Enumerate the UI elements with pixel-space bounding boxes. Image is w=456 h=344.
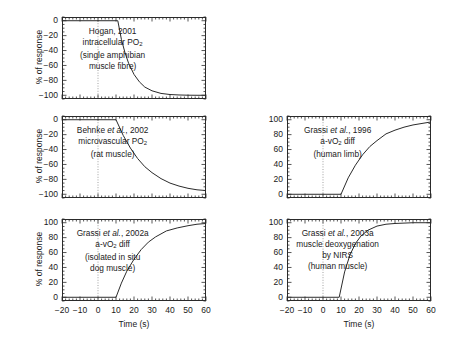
panel-annotation-grassi-1996: Grassi et al., 1996a-vO2 diff(human limb… — [293, 125, 382, 160]
annotation-line: Hogan, 2001 — [68, 26, 157, 37]
annotation-line: intracellular PO2 — [68, 37, 157, 50]
annotation-line: microvascular PO2 — [68, 136, 157, 149]
y-tick-label-grassi-1996: 100 — [253, 114, 283, 124]
panel-annotation-behnke-2002: Behnke et al., 2002microvascular PO2(rat… — [68, 125, 157, 160]
annotation-line: (isolated in situ — [68, 252, 157, 263]
annotation-line: (human muscle) — [293, 261, 382, 272]
y-tick-label-grassi-1996: 60 — [253, 144, 283, 154]
annotation-line: muscle fibre) — [68, 61, 157, 72]
annotation-line: (rat muscle) — [68, 149, 157, 160]
x-tick-label-grassi-2003a: 60 — [417, 305, 445, 315]
annotation-line: Grassi et al., 2003a — [293, 228, 382, 239]
y-axis-title-hogan-2001: % of response — [34, 16, 44, 98]
annotation-line: dog muscle) — [68, 263, 157, 274]
y-axis-title-behnke-2002: % of response — [34, 115, 44, 197]
y-axis-title-grassi-2002a: % of response — [34, 218, 44, 300]
y-tick-label-grassi-2003a: 40 — [253, 262, 283, 272]
y-tick-label-grassi-2003a: 80 — [253, 232, 283, 242]
panel-annotation-hogan-2001: Hogan, 2001intracellular PO2(single amph… — [68, 26, 157, 72]
annotation-line: (single amphibian — [68, 50, 157, 61]
x-axis-title-grassi-2002a: Time (s) — [62, 319, 206, 329]
y-tick-label-grassi-1996: 40 — [253, 159, 283, 169]
y-tick-label-grassi-2003a: 0 — [253, 292, 283, 302]
figure-panel-grid: 0−20−40−60−80−100% of responseHogan, 200… — [0, 0, 456, 344]
x-tick-label-grassi-2002a: 60 — [192, 305, 220, 315]
y-tick-label-grassi-1996: 80 — [253, 129, 283, 139]
y-tick-label-grassi-2003a: 60 — [253, 247, 283, 257]
y-tick-label-grassi-2003a: 100 — [253, 217, 283, 227]
y-tick-label-grassi-1996: 0 — [253, 189, 283, 199]
annotation-line: Grassi et al., 1996 — [293, 125, 382, 136]
annotation-line: by NIRS — [293, 250, 382, 261]
annotation-line: Behnke et al., 2002 — [68, 125, 157, 136]
panel-annotation-grassi-2002a: Grassi et al., 2002aa-vO2 diff(isolated … — [68, 228, 157, 274]
x-axis-title-grassi-2003a: Time (s) — [287, 319, 431, 329]
annotation-line: Grassi et al., 2002a — [68, 228, 157, 239]
y-tick-label-grassi-2003a: 20 — [253, 277, 283, 287]
annotation-line: a-vO2 diff — [293, 136, 382, 149]
annotation-line: a-vO2 diff — [68, 239, 157, 252]
panel-annotation-grassi-2003a: Grassi et al., 2003amuscle deoxygenation… — [293, 228, 382, 272]
y-tick-label-grassi-1996: 20 — [253, 174, 283, 184]
annotation-line: (human limb) — [293, 149, 382, 160]
annotation-line: muscle deoxygenation — [293, 239, 382, 250]
